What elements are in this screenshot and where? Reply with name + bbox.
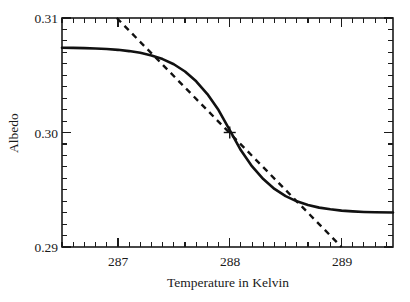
y-tick-label-029: 0.29 xyxy=(34,240,58,255)
chart-figure: 287 288 289 0.31 0.30 0.29 Temperature i… xyxy=(0,0,410,302)
x-axis-title: Temperature in Kelvin xyxy=(167,275,289,290)
y-axis-title: Albedo xyxy=(6,113,21,153)
x-tick-label-289: 289 xyxy=(332,254,353,269)
y-tick-label-031: 0.31 xyxy=(34,11,58,26)
x-tick-label-288: 288 xyxy=(220,254,241,269)
y-tick-label-030: 0.30 xyxy=(34,126,58,141)
x-tick-label-287: 287 xyxy=(108,254,129,269)
albedo-temperature-chart: 287 288 289 0.31 0.30 0.29 Temperature i… xyxy=(0,0,410,302)
